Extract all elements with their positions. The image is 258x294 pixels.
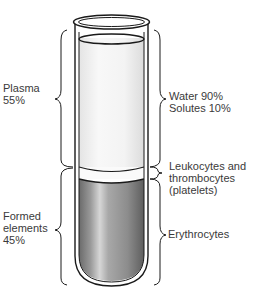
buffy-coat-label-line1: Leukocytes and bbox=[169, 160, 246, 172]
formed-elements-brace bbox=[55, 168, 73, 285]
erythrocytes-label-text: Erythrocytes bbox=[168, 228, 229, 240]
formed-elements-label-line1: Formed bbox=[3, 210, 48, 222]
blood-composition-diagram: Plasma 55% Formed elements 45% Water 90%… bbox=[0, 0, 258, 294]
right-braces bbox=[150, 30, 166, 285]
plasma-layer bbox=[79, 38, 144, 168]
buffy-coat-label-line2: thrombocytes bbox=[169, 172, 246, 184]
formed-elements-label-line2: elements bbox=[3, 222, 48, 234]
plasma-label-percent: 55% bbox=[3, 94, 40, 106]
plasma-label-name: Plasma bbox=[3, 82, 40, 94]
erythrocytes-brace bbox=[150, 179, 166, 285]
plasma-brace bbox=[55, 30, 73, 167]
plasma-composition-brace bbox=[150, 30, 166, 167]
left-braces bbox=[55, 30, 73, 285]
buffy-coat-label: Leukocytes and thrombocytes (platelets) bbox=[169, 160, 246, 196]
formed-elements-label: Formed elements 45% bbox=[3, 210, 48, 246]
formed-elements-label-percent: 45% bbox=[3, 234, 48, 246]
plasma-label: Plasma 55% bbox=[3, 82, 40, 106]
water-percent-label: Water 90% bbox=[169, 90, 231, 102]
solutes-percent-label: Solutes 10% bbox=[169, 102, 231, 114]
buffy-coat-label-line3: (platelets) bbox=[169, 184, 246, 196]
erythrocytes-layer bbox=[79, 179, 144, 281]
buffy-coat-brace bbox=[150, 167, 162, 179]
plasma-composition-label: Water 90% Solutes 10% bbox=[169, 90, 231, 114]
test-tube-illustration bbox=[0, 0, 258, 294]
erythrocytes-label: Erythrocytes bbox=[168, 228, 229, 240]
buffy-coat-layer bbox=[79, 167, 144, 179]
